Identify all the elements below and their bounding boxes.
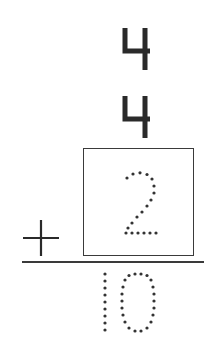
worksheet: 4 4 (0, 0, 217, 340)
digit-4-glyph (122, 27, 152, 71)
plus-icon (22, 219, 60, 257)
dotted-number-10 (100, 270, 160, 336)
addend-1: 4 (122, 27, 152, 71)
digit-4-glyph (122, 95, 152, 139)
sum-value: 10 (100, 270, 160, 336)
sum-line (22, 261, 204, 263)
dotted-digit-2 (124, 171, 160, 235)
plus-sign: + (22, 219, 60, 257)
answer-box[interactable]: 2 (83, 148, 194, 256)
addend-2: 4 (122, 95, 152, 139)
